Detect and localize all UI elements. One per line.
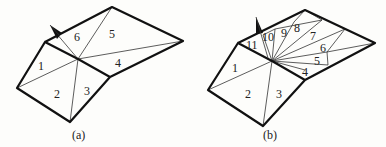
region-label: 5	[314, 54, 320, 68]
region-label: 7	[310, 29, 316, 43]
region-label: 11	[246, 38, 258, 52]
diagram-b: 1 2 3 4 5 6 7 8 9 10 11 (b)	[208, 10, 375, 142]
region-label: 2	[54, 87, 60, 101]
caption-b: (b)	[263, 128, 277, 142]
mesh-diagrams: 1 2 3 4 5 6 (a)	[0, 0, 386, 147]
figure-canvas: 1 2 3 4 5 6 (a)	[0, 0, 386, 147]
region-label: 8	[294, 21, 300, 35]
region-label: 3	[276, 87, 282, 101]
diagram-a: 1 2 3 4 5 6 (a)	[17, 7, 183, 142]
region-label: 1	[232, 61, 238, 75]
region-label: 1	[38, 59, 44, 73]
region-label: 4	[115, 56, 121, 70]
region-label: 10	[262, 30, 274, 44]
region-label: 3	[84, 84, 90, 98]
region-label: 4	[302, 65, 308, 79]
region-label: 5	[109, 27, 115, 41]
region-label: 2	[245, 87, 251, 101]
region-label: 9	[281, 26, 287, 40]
region-label: 6	[74, 30, 80, 44]
region-label: 6	[320, 41, 326, 55]
caption-a: (a)	[72, 128, 85, 142]
